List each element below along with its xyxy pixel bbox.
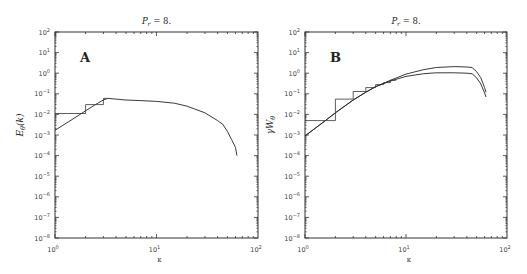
y-tick-label: 10−3	[284, 130, 300, 140]
y-tick-label: 10−2	[284, 109, 300, 119]
x-tick-label: 102	[499, 244, 510, 254]
y-tick-label: 100	[39, 68, 50, 78]
x-tick-label: 102	[250, 244, 261, 254]
y-tick-label: 10−1	[284, 88, 300, 98]
x-tick-label: 101	[149, 244, 160, 254]
y-tick-label: 10−1	[34, 88, 50, 98]
panel-letter: A	[79, 50, 91, 65]
figure: 10210110010−110−210−310−410−510−610−710−…	[0, 0, 527, 274]
y-tick-label: 10−7	[284, 212, 300, 222]
y-tick-label: 10−5	[34, 171, 50, 181]
y-tick-label: 10−2	[34, 109, 50, 119]
y-tick-label: 100	[289, 68, 300, 78]
y-tick-label: 10−8	[284, 233, 300, 243]
y-tick-label: 102	[289, 27, 300, 37]
step-series	[305, 80, 396, 120]
y-tick-label: 10−5	[284, 171, 300, 181]
line-series	[305, 73, 486, 136]
y-tick-label: 10−8	[34, 233, 50, 243]
step-series	[55, 98, 108, 113]
y-tick-label: 10−4	[34, 150, 50, 160]
y-axis-label: γWθ	[265, 116, 277, 135]
x-tick-label: 101	[398, 244, 409, 254]
panel-b: 10210110010−110−210−310−410−510−610−710−…	[265, 16, 511, 264]
y-tick-label: 10−7	[34, 212, 50, 222]
x-axis-label: κ	[157, 256, 162, 264]
y-tick-label: 10−4	[284, 150, 300, 160]
y-tick-label: 102	[39, 27, 50, 37]
y-tick-label: 101	[39, 47, 50, 57]
panel-title: Pr = 8.	[390, 16, 420, 27]
x-tick-label: 100	[47, 244, 58, 254]
line-series	[305, 67, 486, 136]
y-tick-label: 10−3	[34, 130, 50, 140]
line-series	[55, 98, 237, 155]
panel-title: Pr = 8.	[141, 16, 171, 27]
x-axis-label: κ	[407, 256, 412, 264]
x-tick-label: 100	[297, 244, 308, 254]
y-tick-label: 10−6	[284, 191, 300, 201]
y-tick-label: 10−6	[34, 191, 50, 201]
y-axis-label: Eθ(k)	[15, 113, 27, 137]
panel-letter: B	[330, 50, 341, 65]
y-tick-label: 101	[289, 47, 300, 57]
panel-a: 10210110010−110−210−310−410−510−610−710−…	[15, 16, 262, 264]
